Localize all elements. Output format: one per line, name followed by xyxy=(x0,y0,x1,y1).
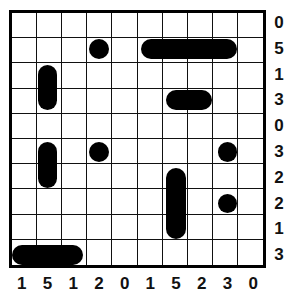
grid-cell[interactable] xyxy=(238,240,263,265)
grid-cell[interactable] xyxy=(138,215,163,240)
grid-cell[interactable] xyxy=(62,215,87,240)
grid-cell[interactable] xyxy=(62,89,87,114)
grid-cell[interactable] xyxy=(188,13,213,38)
grid-cell[interactable] xyxy=(62,114,87,139)
grid-cell[interactable] xyxy=(138,63,163,88)
grid-cell[interactable] xyxy=(238,63,263,88)
grid-cell[interactable] xyxy=(188,114,213,139)
grid-cell[interactable] xyxy=(12,189,37,214)
grid-cell[interactable] xyxy=(188,215,213,240)
grid-cell[interactable] xyxy=(138,240,163,265)
grid-cell[interactable] xyxy=(112,13,137,38)
grid-cell[interactable] xyxy=(87,240,112,265)
grid-cell[interactable] xyxy=(138,89,163,114)
grid-cell[interactable] xyxy=(112,63,137,88)
grid-cell[interactable] xyxy=(37,215,62,240)
grid-cell[interactable] xyxy=(238,38,263,63)
row-clue: 2 xyxy=(269,194,289,214)
grid-cell[interactable] xyxy=(62,139,87,164)
grid-cell[interactable] xyxy=(238,215,263,240)
grid-cell[interactable] xyxy=(213,164,238,189)
grid-cell[interactable] xyxy=(138,189,163,214)
grid-cell[interactable] xyxy=(12,114,37,139)
grid-cell[interactable] xyxy=(37,13,62,38)
grid-cell[interactable] xyxy=(112,164,137,189)
grid-cell[interactable] xyxy=(112,38,137,63)
grid-cell[interactable] xyxy=(138,13,163,38)
column-clue: 0 xyxy=(115,274,135,294)
row-clue: 1 xyxy=(269,219,289,239)
grid-cell[interactable] xyxy=(87,13,112,38)
grid-cell[interactable] xyxy=(87,89,112,114)
grid-cell[interactable] xyxy=(112,89,137,114)
grid-cell[interactable] xyxy=(62,164,87,189)
grid-cell[interactable] xyxy=(112,114,137,139)
grid-cell[interactable] xyxy=(87,215,112,240)
grid-cell[interactable] xyxy=(62,63,87,88)
grid-cell[interactable] xyxy=(138,114,163,139)
grid-cell[interactable] xyxy=(238,89,263,114)
grid-cell[interactable] xyxy=(238,114,263,139)
grid-cell[interactable] xyxy=(87,63,112,88)
ship-segment xyxy=(38,142,58,188)
grid-cell[interactable] xyxy=(163,114,188,139)
grid-cell[interactable] xyxy=(87,164,112,189)
column-clue: 2 xyxy=(89,274,109,294)
grid-cell[interactable] xyxy=(238,139,263,164)
grid-cell[interactable] xyxy=(213,63,238,88)
grid-cell[interactable] xyxy=(12,164,37,189)
column-clue: 2 xyxy=(192,274,212,294)
grid-cell[interactable] xyxy=(12,89,37,114)
row-clue: 3 xyxy=(269,90,289,110)
column-clue: 1 xyxy=(140,274,160,294)
grid-cell[interactable] xyxy=(12,139,37,164)
grid-cell[interactable] xyxy=(213,240,238,265)
grid-cell[interactable] xyxy=(213,215,238,240)
row-clue: 2 xyxy=(269,168,289,188)
grid-cell[interactable] xyxy=(87,189,112,214)
grid-cell[interactable] xyxy=(163,240,188,265)
row-clue: 0 xyxy=(269,116,289,136)
row-clue: 3 xyxy=(269,142,289,162)
column-clue: 3 xyxy=(217,274,237,294)
column-clue: 1 xyxy=(12,274,32,294)
grid-cell[interactable] xyxy=(188,139,213,164)
grid-cell[interactable] xyxy=(238,189,263,214)
column-clue: 0 xyxy=(243,274,263,294)
grid-cell[interactable] xyxy=(213,114,238,139)
grid-cell[interactable] xyxy=(213,89,238,114)
grid-cell[interactable] xyxy=(163,13,188,38)
grid-cell[interactable] xyxy=(188,240,213,265)
grid-cell[interactable] xyxy=(238,164,263,189)
grid-cell[interactable] xyxy=(87,114,112,139)
grid-cell[interactable] xyxy=(213,13,238,38)
ship-segment xyxy=(141,39,238,59)
grid-cell[interactable] xyxy=(188,164,213,189)
grid-cell[interactable] xyxy=(37,189,62,214)
grid-cell[interactable] xyxy=(138,164,163,189)
grid-cell[interactable] xyxy=(12,215,37,240)
grid-cell[interactable] xyxy=(188,189,213,214)
grid-cell[interactable] xyxy=(238,13,263,38)
grid-cell[interactable] xyxy=(12,13,37,38)
grid-cell[interactable] xyxy=(62,38,87,63)
ship-segment xyxy=(12,245,83,265)
grid-cell[interactable] xyxy=(112,240,137,265)
column-clue: 5 xyxy=(166,274,186,294)
grid-cell[interactable] xyxy=(163,139,188,164)
grid-cell[interactable] xyxy=(62,13,87,38)
grid-cell[interactable] xyxy=(112,189,137,214)
grid-cell[interactable] xyxy=(138,139,163,164)
ship-segment xyxy=(166,90,211,110)
grid-cell[interactable] xyxy=(62,189,87,214)
grid-cell[interactable] xyxy=(12,63,37,88)
grid-cell[interactable] xyxy=(112,215,137,240)
row-clue: 3 xyxy=(269,245,289,265)
grid-cell[interactable] xyxy=(163,63,188,88)
grid-cell[interactable] xyxy=(112,139,137,164)
grid-cell[interactable] xyxy=(37,38,62,63)
row-clue: 1 xyxy=(269,65,289,85)
grid-cell[interactable] xyxy=(188,63,213,88)
grid-cell[interactable] xyxy=(12,38,37,63)
grid-cell[interactable] xyxy=(37,114,62,139)
